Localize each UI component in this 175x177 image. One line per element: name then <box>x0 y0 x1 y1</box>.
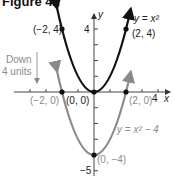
y-tick-neg5: −5 <box>80 165 92 176</box>
point-2-4 <box>123 26 128 31</box>
point-0-neg4 <box>91 152 96 157</box>
parabola-graph: y x 4 −5 4 (−2, 4) (2, 4) (−2, 0) (0, 0)… <box>0 0 175 177</box>
label-point-0-0: (0, 0) <box>66 95 89 106</box>
y-axis <box>94 14 98 176</box>
label-point-neg2-4: (−2, 4) <box>33 24 62 35</box>
x-tick-4: 4 <box>152 93 158 104</box>
label-point-2-4: (2, 4) <box>132 28 155 39</box>
y-axis-label: y <box>97 9 104 20</box>
label-point-0-neg4: (0, −4) <box>97 154 126 165</box>
y-tick-4: 4 <box>84 24 90 35</box>
label-point-2-0: (2, 0) <box>129 95 152 106</box>
point-0-0 <box>91 89 96 94</box>
point-neg2-0 <box>59 89 64 94</box>
curve-label-original: y = x² <box>133 13 159 24</box>
annotation-line2: 4 units <box>2 66 31 77</box>
x-axis-label: x <box>163 93 170 104</box>
curve-label-shifted: y = x² − 4 <box>116 124 159 135</box>
annotation-line1: Down <box>6 54 32 65</box>
label-point-neg2-0: (−2, 0) <box>30 95 59 106</box>
point-2-0 <box>123 89 128 94</box>
